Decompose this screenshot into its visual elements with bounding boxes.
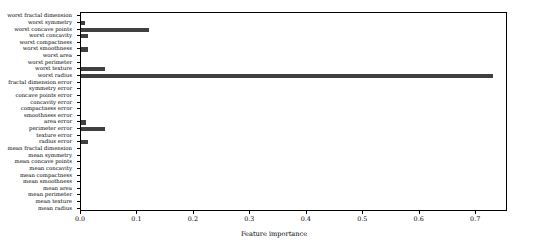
x-tick-mark bbox=[419, 211, 420, 214]
x-tick-label: 0.1 bbox=[131, 215, 141, 223]
x-tick-label: 0.5 bbox=[357, 215, 367, 223]
x-tick-mark bbox=[362, 211, 363, 214]
x-tick-mark bbox=[475, 211, 476, 214]
x-tick-mark bbox=[80, 211, 81, 214]
x-tick-mark bbox=[193, 211, 194, 214]
x-axis-ticks: 0.00.10.20.30.40.50.60.7 bbox=[0, 0, 533, 247]
x-tick-mark bbox=[306, 211, 307, 214]
feature-importance-chart: worst fractal dimensionworst symmetrywor… bbox=[0, 0, 533, 247]
x-tick-label: 0.4 bbox=[301, 215, 311, 223]
x-tick-label: 0.2 bbox=[188, 215, 198, 223]
x-tick-label: 0.6 bbox=[414, 215, 424, 223]
x-tick-mark bbox=[249, 211, 250, 214]
x-tick-label: 0.3 bbox=[244, 215, 254, 223]
x-tick-label: 0.0 bbox=[75, 215, 85, 223]
x-axis-title-text: Feature importance bbox=[226, 230, 307, 238]
x-axis-title: Feature importance bbox=[0, 230, 533, 238]
x-tick-mark bbox=[136, 211, 137, 214]
x-tick-label: 0.7 bbox=[470, 215, 480, 223]
